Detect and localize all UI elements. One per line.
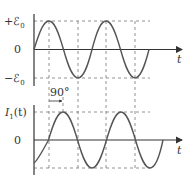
- bottom-graph: I1(t) 0 t: [4, 105, 182, 175]
- minus-emf-label: −ℰ0: [4, 72, 25, 87]
- waveform-diagram: +ℰ0 0 −ℰ0 t 90° I1(t) 0 t: [0, 0, 191, 181]
- bottom-zero-label: 0: [14, 134, 21, 147]
- top-graph: +ℰ0 0 −ℰ0 t: [4, 14, 182, 87]
- phase-marker: 90°: [49, 86, 70, 112]
- plus-emf-label: +ℰ0: [4, 15, 25, 30]
- phase-label: 90°: [50, 86, 70, 99]
- bottom-t-label: t: [177, 144, 182, 157]
- top-zero-label: 0: [14, 43, 21, 56]
- current-label: I1(t): [4, 106, 27, 121]
- top-t-label: t: [177, 53, 182, 66]
